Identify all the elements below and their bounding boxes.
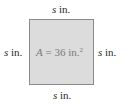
side-label-left: s in. [4,47,22,58]
side-label-bottom: s in. [53,90,71,101]
side-unit: in. [56,3,70,15]
side-unit: in. [8,46,22,58]
side-label-right: s in. [98,47,116,58]
side-unit: in. [102,46,116,58]
area-variable: A [36,46,43,58]
side-unit: in. [57,89,71,101]
area-exponent: 2 [80,46,84,54]
area-value: = 36 in. [43,46,80,58]
side-label-top: s in. [52,4,70,15]
area-label: A = 36 in.2 [36,47,83,58]
